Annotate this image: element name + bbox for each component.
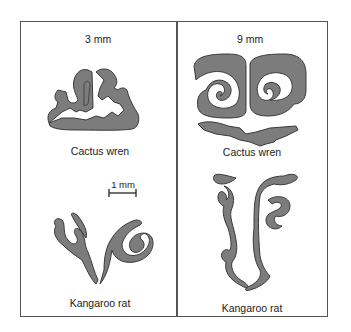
right-kangaroo-rat-shape bbox=[213, 174, 297, 290]
figure-artwork bbox=[0, 0, 351, 332]
scale-bar bbox=[109, 189, 136, 197]
left-kangaroo-rat-shape bbox=[54, 213, 153, 284]
right-cactus-wren-shape bbox=[194, 54, 306, 146]
left-cactus-wren-shape bbox=[48, 69, 139, 130]
